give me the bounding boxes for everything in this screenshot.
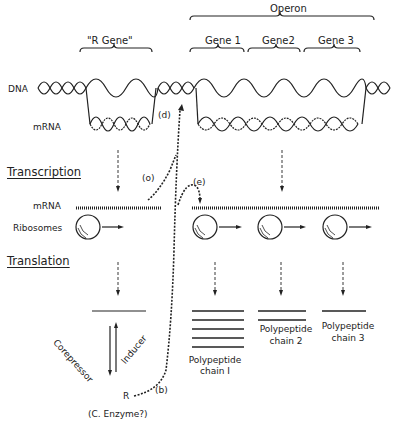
polypeptide-chain-1-line2: chain I — [185, 367, 245, 376]
r-label: R — [123, 392, 129, 401]
gene2-label: Gene2 — [262, 36, 295, 46]
b-label: (b) — [155, 386, 168, 395]
mrna-top-right — [198, 117, 358, 131]
dna-helix — [38, 79, 390, 97]
mrna-top-left — [90, 117, 150, 131]
polypeptide-chain-3-line2: chain 3 — [318, 334, 378, 343]
a-label: (o) — [142, 174, 155, 183]
polypeptide-chain-2-line2: chain 2 — [256, 337, 316, 346]
repressor-chain — [134, 110, 180, 396]
r-gene-label: "R Gene" — [87, 36, 133, 46]
polypeptide-chain-3-line1: Polypeptide — [318, 322, 378, 331]
e-label: (e) — [193, 178, 206, 187]
polypeptide-chain-2-line1: Polypeptide — [256, 325, 316, 334]
dna-label: DNA — [8, 85, 28, 94]
mrna-mid-label: mRNA — [33, 202, 61, 211]
polypeptide-chain-1-line1: Polypeptide — [185, 356, 245, 365]
transcription-heading: Transcription — [7, 167, 81, 179]
gene3-label: Gene 3 — [318, 36, 354, 46]
enzyme-label: (C. Enzyme?) — [88, 410, 148, 419]
mrna-top-label: mRNA — [33, 123, 61, 132]
d-label: (d) — [158, 111, 171, 120]
gene1-label: Gene 1 — [205, 36, 241, 46]
ribosomes-label: Ribosomes — [13, 224, 62, 233]
operon-label: Operon — [270, 4, 307, 14]
translation-heading: Translation — [7, 256, 70, 268]
